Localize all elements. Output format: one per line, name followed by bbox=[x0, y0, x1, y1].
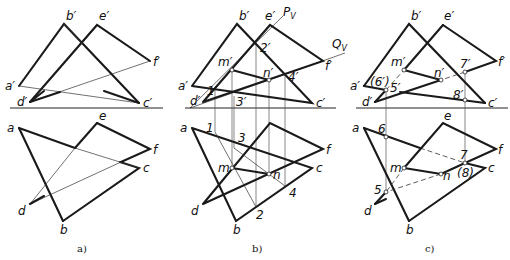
label-b-prime: b′ bbox=[66, 9, 77, 23]
label-b-prime: b′ bbox=[411, 9, 422, 23]
label-c-prime: c′ bbox=[143, 96, 153, 110]
triangle-abc-top bbox=[192, 128, 312, 221]
label-n: n bbox=[273, 168, 281, 182]
label-2: 2 bbox=[256, 208, 264, 222]
label-f-prime: f′ bbox=[325, 59, 332, 73]
edge-ed-top-seg bbox=[75, 123, 97, 148]
label-6: 6 bbox=[378, 122, 386, 136]
label-e-prime: e′ bbox=[99, 9, 109, 23]
edge-ef-top bbox=[404, 123, 496, 168]
label-f: f bbox=[498, 143, 504, 157]
label-d-prime: d′ bbox=[362, 95, 373, 109]
panel-a: b′ e′ f′ a′ d′ c′ e a f c d b a) bbox=[5, 9, 163, 254]
point-m bbox=[230, 166, 234, 170]
label-2-prime: 2′ bbox=[260, 41, 271, 55]
point-n bbox=[267, 172, 271, 176]
edge-df-top-thin bbox=[30, 162, 121, 204]
panel-c: b′ e′ m′ n′ 7′ f′ a′ (6′) 5′ d′ 8′ c′ e … bbox=[350, 9, 508, 254]
label-5-prime: 5′ bbox=[390, 81, 401, 95]
label-5: 5 bbox=[374, 183, 382, 197]
label-n: n bbox=[443, 169, 451, 183]
edge-ac-front-right bbox=[400, 92, 485, 103]
edge-df-top-seg bbox=[30, 196, 44, 204]
label-Qv: QV bbox=[332, 37, 347, 53]
edge-bc-hidden bbox=[64, 24, 83, 44]
label-c-prime: c′ bbox=[316, 96, 326, 110]
label-8: (8) bbox=[457, 166, 474, 180]
label-a: a bbox=[7, 121, 14, 135]
label-e: e bbox=[444, 109, 451, 123]
label-3-prime: 3′ bbox=[236, 95, 247, 109]
label-b: b bbox=[60, 223, 68, 237]
label-7-prime: 7′ bbox=[460, 57, 471, 71]
label-d-prime: d′ bbox=[190, 94, 201, 108]
label-1-prime: 1′ bbox=[207, 84, 218, 98]
edge-ac-top-hidden bbox=[420, 148, 465, 163]
point-8-prime bbox=[463, 98, 467, 102]
caption-b: b) bbox=[252, 243, 262, 254]
label-a-prime: a′ bbox=[5, 79, 15, 93]
label-1: 1 bbox=[206, 121, 214, 135]
intersection-mn-top bbox=[404, 168, 441, 174]
label-f-prime: f′ bbox=[153, 55, 160, 69]
label-m: m bbox=[218, 161, 230, 175]
caption-c: c) bbox=[425, 243, 435, 254]
label-a-prime: a′ bbox=[350, 79, 360, 93]
projection-diagram: b′ e′ f′ a′ d′ c′ e a f c d b a) bbox=[0, 0, 510, 260]
label-a: a bbox=[352, 121, 359, 135]
label-f: f bbox=[153, 143, 159, 157]
label-a: a bbox=[180, 121, 187, 135]
panel-b: b′ e′ PV QV 2′ m′ n′ 4′ f′ a′ 1′ d′ 3′ c… bbox=[178, 5, 347, 254]
label-b: b bbox=[406, 223, 414, 237]
label-Pv: PV bbox=[283, 5, 296, 21]
label-8-prime: 8′ bbox=[453, 88, 464, 102]
point-5 bbox=[384, 190, 388, 194]
label-4: 4 bbox=[289, 186, 297, 200]
label-c-prime: c′ bbox=[488, 96, 498, 110]
label-b-prime: b′ bbox=[239, 9, 250, 23]
label-c: c bbox=[143, 161, 150, 175]
label-c: c bbox=[488, 161, 495, 175]
label-e-prime: e′ bbox=[265, 9, 275, 23]
label-m-prime: m′ bbox=[218, 55, 233, 69]
label-d: d bbox=[191, 204, 199, 218]
point-m bbox=[402, 166, 406, 170]
label-4-prime: 4′ bbox=[288, 70, 299, 84]
caption-a: a) bbox=[77, 243, 87, 254]
triangle-abc-front-visible bbox=[19, 24, 139, 103]
label-d: d bbox=[18, 204, 26, 218]
label-n-prime: n′ bbox=[263, 66, 274, 80]
edge-df-top-hidden bbox=[386, 174, 441, 192]
label-6-prime: (6′) bbox=[370, 75, 390, 89]
label-a-prime: a′ bbox=[178, 79, 188, 93]
label-b: b bbox=[233, 223, 241, 237]
edge-ef-top bbox=[97, 123, 150, 162]
label-e-prime: e′ bbox=[444, 9, 454, 23]
edge-ed-top-thin bbox=[30, 148, 75, 204]
label-f: f bbox=[326, 143, 332, 157]
label-3: 3 bbox=[238, 131, 246, 145]
label-c: c bbox=[316, 161, 323, 175]
label-e: e bbox=[99, 109, 106, 123]
label-n-prime: n′ bbox=[434, 66, 445, 80]
label-d-prime: d′ bbox=[17, 95, 28, 109]
label-m: m bbox=[390, 161, 402, 175]
edge-de-front-upper bbox=[404, 25, 443, 70]
label-f-prime: f′ bbox=[498, 55, 505, 69]
label-7: 7 bbox=[460, 148, 468, 162]
label-m-prime: m′ bbox=[391, 55, 406, 69]
label-d: d bbox=[364, 204, 372, 218]
